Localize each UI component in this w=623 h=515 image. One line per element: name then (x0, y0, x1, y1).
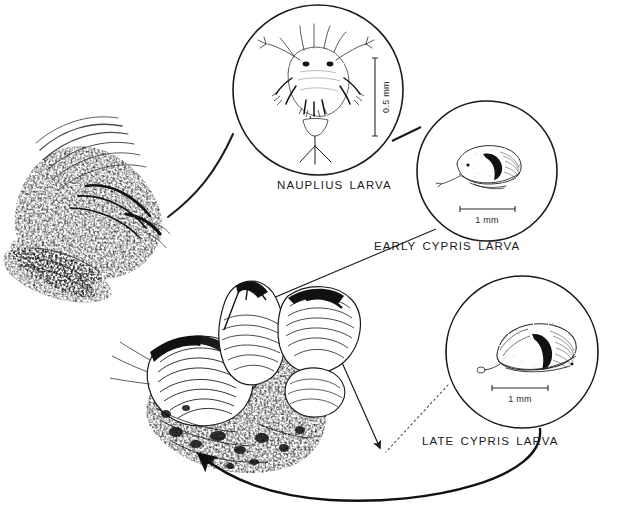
barnacle-life-cycle-figure: 0.5 mm (0, 0, 623, 515)
stage-label-nauplius-larva: NAUPLIUS LARVA (277, 179, 392, 191)
illustration-adult-barnacle-feeding (4, 117, 170, 303)
scale-bar-early-cypris-label: 1 mm (475, 215, 499, 225)
scale-bar-late-cypris-label: 1 mm (508, 394, 532, 404)
connector-adult-to-nauplius (168, 134, 233, 217)
stage-label-late-cypris-larva: LATE CYPRIS LARVA (422, 435, 558, 447)
stage-label-early-cypris-larva: EARLY CYPRIS LARVA (374, 240, 520, 252)
connector-nauplius-to-early-cypris (392, 127, 421, 141)
illustration-adult-barnacle-cluster (110, 281, 360, 473)
scale-bar-nauplius-label: 0.5 mm (381, 81, 391, 113)
